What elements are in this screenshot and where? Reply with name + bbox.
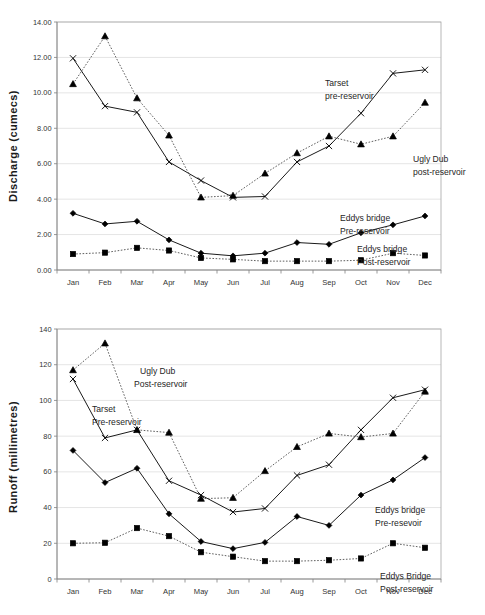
- discharge-data-point: [358, 110, 364, 116]
- discharge-y-axis-title: Discharge (cumecs): [7, 90, 19, 202]
- discharge-data-point: [70, 251, 75, 256]
- discharge-annotation-line: Ugly Dub: [413, 153, 466, 166]
- runoff-series-3: [70, 526, 427, 564]
- discharge-annotation-eddys-post: Eddys bridgePost-reservoir: [357, 243, 410, 269]
- runoff-data-point: [134, 526, 139, 531]
- discharge-data-point: [422, 253, 427, 258]
- runoff-annotation-line: Eddys Bridge: [380, 570, 433, 583]
- discharge-annotation-line: Eddys bridge: [340, 212, 390, 225]
- runoff-annotation-line: Pre-resevoir: [375, 517, 425, 530]
- runoff-data-point: [102, 340, 109, 346]
- discharge-data-point: [294, 240, 300, 246]
- discharge-data-point: [102, 250, 107, 255]
- runoff-x-tick-label: Oct: [355, 587, 368, 596]
- discharge-data-point: [326, 143, 332, 149]
- runoff-data-point: [134, 465, 140, 471]
- discharge-series-1: [70, 33, 429, 200]
- discharge-data-point: [390, 222, 396, 228]
- runoff-y-tick-label: 20: [43, 539, 51, 548]
- discharge-x-tick-label: Feb: [98, 278, 111, 287]
- runoff-data-point: [326, 430, 333, 436]
- runoff-y-axis-title: Runoff (millimetres): [7, 401, 19, 513]
- discharge-data-point: [294, 259, 299, 264]
- runoff-annotation-line: Pre-reservoir: [92, 416, 142, 429]
- runoff-data-point: [102, 540, 107, 545]
- runoff-y-tick-label: 80: [43, 432, 51, 441]
- discharge-x-tick-label: Jan: [67, 278, 79, 287]
- discharge-y-tick-label: 10.00: [33, 88, 52, 97]
- discharge-x-tick-label: Oct: [355, 278, 368, 287]
- runoff-data-point: [294, 559, 299, 564]
- discharge-annotation-line: Eddys bridge: [357, 243, 410, 256]
- runoff-x-tick-label: Jan: [67, 587, 79, 596]
- discharge-data-point: [326, 259, 331, 264]
- runoff-y-tick-label: 40: [43, 503, 51, 512]
- discharge-data-point: [102, 221, 108, 227]
- discharge-y-tick-label: 14.00: [33, 18, 52, 27]
- discharge-annotation-uglydub: Ugly Dubpost-reservoir: [413, 153, 466, 179]
- runoff-data-point: [198, 550, 203, 555]
- runoff-data-point: [390, 395, 396, 401]
- discharge-data-point: [230, 257, 235, 262]
- discharge-data-point: [422, 213, 428, 219]
- discharge-series-0: [70, 55, 428, 200]
- runoff-data-point: [326, 462, 332, 468]
- runoff-y-axis: 020406080100120140: [39, 325, 57, 584]
- discharge-annotation-line: pre-reservoir: [325, 90, 374, 103]
- discharge-annotation-tarset: Tarsetpre-reservoir: [325, 77, 374, 103]
- discharge-x-tick-label: Aug: [290, 278, 304, 287]
- discharge-data-point: [390, 133, 397, 139]
- discharge-x-tick-label: Jul: [260, 278, 270, 287]
- runoff-annotation-line: Tarset: [92, 403, 142, 416]
- discharge-data-point: [262, 259, 267, 264]
- runoff-data-point: [422, 545, 427, 550]
- discharge-x-tick-label: Nov: [386, 278, 400, 287]
- discharge-annotation-line: post-reservoir: [413, 166, 466, 179]
- discharge-x-tick-label: May: [194, 278, 209, 287]
- discharge-data-point: [326, 241, 332, 247]
- runoff-data-point: [422, 388, 429, 394]
- runoff-data-point: [294, 472, 300, 478]
- runoff-x-tick-label: Mar: [130, 587, 144, 596]
- runoff-x-tick-label: Aug: [290, 587, 304, 596]
- runoff-plot-frame: [57, 329, 441, 579]
- runoff-x-tick-label: Jun: [227, 587, 239, 596]
- runoff-x-tick-label: Apr: [163, 587, 175, 596]
- runoff-y-tick-label: 100: [39, 396, 51, 405]
- discharge-data-point: [294, 150, 301, 156]
- runoff-data-point: [358, 427, 364, 433]
- discharge-y-tick-label: 0.00: [37, 266, 51, 275]
- runoff-data-point: [390, 477, 396, 483]
- discharge-data-point: [326, 133, 333, 139]
- discharge-data-point: [262, 170, 269, 176]
- runoff-data-point: [422, 455, 428, 461]
- runoff-series-2: [70, 448, 428, 552]
- discharge-annotation-line: Post-reservoir: [357, 256, 410, 269]
- runoff-data-point: [390, 541, 395, 546]
- runoff-data-point: [358, 556, 363, 561]
- runoff-data-point: [326, 558, 331, 563]
- discharge-x-tick-label: Dec: [418, 278, 432, 287]
- runoff-annotation-tarset: TarsetPre-reservoir: [92, 403, 142, 429]
- discharge-data-point: [134, 245, 139, 250]
- discharge-annotation-line: Pre-reservoir: [340, 225, 390, 238]
- runoff-annotation-eddys-pre: Eddys bridgePre-resevoir: [375, 504, 425, 530]
- discharge-x-tick-label: Sep: [322, 278, 336, 287]
- discharge-y-tick-label: 6.00: [37, 159, 51, 168]
- discharge-data-point: [102, 33, 109, 39]
- discharge-y-tick-label: 12.00: [33, 53, 52, 62]
- discharge-annotation-eddys-pre: Eddys bridgePre-reservoir: [340, 212, 390, 238]
- runoff-data-point: [102, 435, 108, 441]
- runoff-plot: 020406080100120140JanFebMarAprMayJunJulA…: [0, 307, 485, 615]
- runoff-data-point: [70, 376, 76, 382]
- discharge-data-point: [422, 99, 429, 105]
- runoff-annotation-line: Post-reservoir: [380, 583, 433, 596]
- runoff-data-point: [230, 554, 235, 559]
- runoff-annotation-line: Ugly Dub: [140, 365, 187, 378]
- discharge-data-point: [294, 159, 300, 165]
- runoff-data-point: [166, 534, 171, 539]
- runoff-data-point: [294, 443, 301, 449]
- discharge-data-point: [166, 237, 172, 243]
- discharge-y-tick-label: 8.00: [37, 124, 51, 133]
- discharge-x-tick-label: Jun: [227, 278, 239, 287]
